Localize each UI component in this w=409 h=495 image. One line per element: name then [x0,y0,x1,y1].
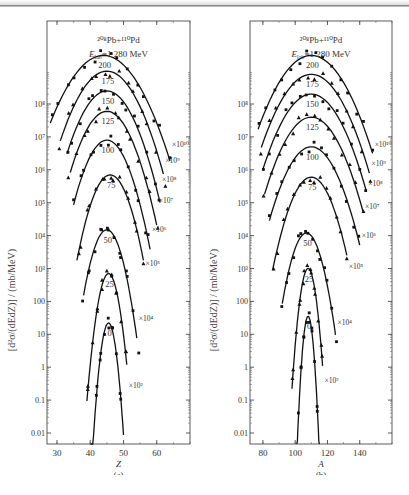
data-point-square [118,252,121,255]
data-point-square [340,185,343,188]
y-tick-label: 10⁵ [237,199,248,208]
data-point-square [318,258,321,261]
data-point-square [80,174,83,177]
series-label: 200 [98,60,111,70]
data-point-square [119,148,122,151]
series-label: 75 [308,182,317,192]
data-point-triangle [57,147,61,151]
data-point-square [346,92,349,95]
series-label: 0 [307,321,311,331]
y-tick-label: 10⁸ [34,100,45,109]
x-tick-label: 50 [119,448,129,458]
data-point-square [107,317,110,320]
y-tick-label: 10 [37,330,45,339]
data-point-triangle [114,111,118,115]
data-point-square [96,385,99,388]
data-point-square [327,107,330,110]
data-point-triangle [339,230,343,234]
data-point-square [88,269,91,272]
data-point-square [145,151,148,154]
data-point-triangle [297,302,301,306]
data-point-triangle [83,133,87,137]
data-point-square [88,97,91,100]
scale-factor-label: ×10² [129,381,144,390]
data-point-square [137,125,140,128]
data-point-triangle [297,116,301,120]
data-point-square [103,333,106,336]
series-label: 100 [306,152,319,162]
series-label: 125 [306,122,319,132]
chart-panel-b: 0.010.111010010³10⁴10⁵10⁶10⁷10⁸ 80100120… [200,0,409,475]
data-point-square [126,67,129,70]
data-point-square [285,108,288,111]
data-point-square [91,94,94,97]
data-point-square [289,68,292,71]
data-point-square [313,95,316,98]
data-point-square [70,142,73,145]
y-tick-label: 10⁶ [237,166,248,175]
data-point-square [117,143,120,146]
series-label: 100 [101,145,114,155]
data-point-triangle [94,119,98,123]
y-tick-label: 10⁶ [34,166,45,175]
y-tick-label: 10³ [35,265,46,274]
data-point-triangle [91,340,95,344]
data-point-triangle [97,107,101,111]
data-point-square [339,78,342,81]
scale-factor-label: ×10⁸ [162,175,177,184]
panel-sublabel: (a) [114,470,124,475]
data-point-square [313,360,316,363]
scale-factor-label: ×10⁶ [152,225,167,234]
y-tick-label: 0.01 [234,429,248,438]
data-point-triangle [66,176,70,180]
scale-factor-label: ×10⁴ [139,314,154,323]
x-tick-label: 100 [288,448,302,458]
data-point-square [335,340,338,343]
data-point-square [288,166,291,169]
y-tick-label: 0.1 [238,396,248,405]
series-label: 150 [101,96,114,106]
data-point-square [300,153,303,156]
fit-curve [297,316,320,444]
data-point-square [280,180,283,183]
data-point-square [355,113,358,116]
data-point-triangle [125,129,129,133]
y-tick-label: 0.1 [35,396,45,405]
data-point-square [153,120,156,123]
data-point-square [276,134,279,137]
x-axis-label: A [317,459,324,469]
data-point-square [99,359,102,362]
data-point-square [109,135,112,138]
data-point-square [293,159,296,162]
y-tick-label: 10⁵ [34,199,45,208]
data-point-square [94,61,97,64]
energy-label: Elab=1 280 MeV [88,49,148,60]
data-point-triangle [318,175,322,179]
data-point-square [51,113,54,116]
data-point-triangle [86,384,90,388]
y-tick-label: 10⁸ [237,100,248,109]
data-point-square [268,153,271,156]
data-point-square [73,76,76,79]
data-point-square [144,232,147,235]
y-tick-label: 10⁷ [237,133,248,142]
data-point-square [305,94,308,97]
data-point-triangle [330,81,334,85]
data-point-square [292,256,295,259]
data-point-square [274,89,277,92]
series-label: 25 [105,279,114,289]
data-point-triangle [77,252,81,256]
data-point-square [95,394,98,397]
data-point-square [364,189,367,192]
series-label: 125 [101,116,114,126]
data-point-triangle [124,350,128,354]
data-point-square [299,95,302,98]
data-point-square [92,151,95,154]
data-point-square [330,307,333,310]
data-point-square [83,66,86,69]
series-label: 200 [306,60,319,70]
data-point-triangle [312,286,316,290]
data-point-triangle [291,132,295,136]
data-point-square [345,200,348,203]
data-point-square [316,405,319,408]
